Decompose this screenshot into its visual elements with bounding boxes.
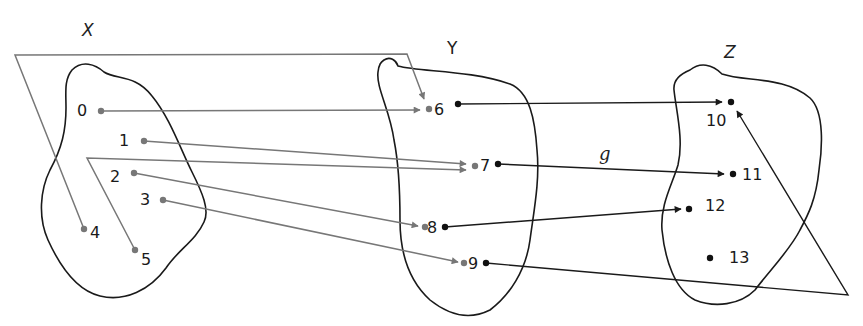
element-9-out-dot xyxy=(483,260,489,266)
set-x-elements: 0 1 2 3 4 5 xyxy=(77,101,166,269)
element-3: 3 xyxy=(140,190,166,209)
edge-g-8-to-12 xyxy=(445,209,681,227)
element-4-dot xyxy=(81,226,87,232)
element-11: 11 xyxy=(730,165,763,184)
element-11-dot xyxy=(730,171,736,177)
element-0-label: 0 xyxy=(77,101,87,120)
element-12-label: 12 xyxy=(705,196,725,215)
set-z-outline xyxy=(662,65,822,304)
element-8-out-dot xyxy=(442,224,448,230)
edge-f-2-to-8 xyxy=(134,173,418,226)
element-3-label: 3 xyxy=(140,190,150,209)
set-z-elements: 10 11 12 13 xyxy=(686,99,763,267)
element-2-label: 2 xyxy=(110,167,120,186)
set-y-outline xyxy=(378,58,538,315)
element-7-label: 7 xyxy=(480,156,490,175)
element-4-label: 4 xyxy=(90,223,100,242)
element-1-dot xyxy=(141,138,147,144)
element-9-label: 9 xyxy=(468,254,478,273)
element-1-label: 1 xyxy=(119,131,129,150)
edge-f-1-to-7 xyxy=(144,141,466,164)
element-5: 5 xyxy=(132,247,151,269)
element-9: 9 xyxy=(461,254,489,273)
element-10-label: 10 xyxy=(706,111,726,130)
element-8-label: 8 xyxy=(427,218,437,237)
element-8: 8 xyxy=(422,218,448,237)
element-4: 4 xyxy=(81,223,100,242)
element-7-in-dot xyxy=(472,163,478,169)
set-y-elements: 6 7 8 9 xyxy=(422,100,501,273)
element-1: 1 xyxy=(119,131,147,150)
function-g-edges: g xyxy=(445,102,848,295)
element-10-dot xyxy=(728,99,734,105)
edge-f-3-to-9 xyxy=(163,200,458,262)
edge-g-7-to-11 xyxy=(498,164,724,174)
element-6-label: 6 xyxy=(434,100,444,119)
element-0-dot xyxy=(98,108,104,114)
set-x-outline xyxy=(41,64,206,297)
edge-g-6-to-10 xyxy=(458,102,722,104)
element-2: 2 xyxy=(110,167,137,186)
edge-f-0-to-6 xyxy=(101,110,420,111)
element-7-out-dot xyxy=(495,161,501,167)
function-g-label: g xyxy=(599,143,611,164)
element-12: 12 xyxy=(686,196,726,215)
element-5-label: 5 xyxy=(141,250,151,269)
element-7: 7 xyxy=(472,156,501,175)
element-13-label: 13 xyxy=(729,248,749,267)
element-6-in-dot xyxy=(426,106,432,112)
set-y-label: Y xyxy=(446,38,458,58)
set-y: Y xyxy=(378,38,538,315)
element-11-label: 11 xyxy=(742,165,762,184)
set-z-label: Z xyxy=(723,42,736,62)
edge-g-9-to-10 xyxy=(486,111,848,295)
element-5-dot xyxy=(132,247,138,253)
element-6: 6 xyxy=(426,100,461,119)
set-x-label: X xyxy=(81,20,94,40)
element-3-dot xyxy=(160,197,166,203)
edge-f-4-to-6 xyxy=(15,54,424,229)
element-10: 10 xyxy=(706,99,734,130)
element-13: 13 xyxy=(707,248,750,267)
function-composition-diagram: X Y Z g 0 1 2 xyxy=(0,0,863,326)
element-9-in-dot xyxy=(461,260,467,266)
element-0: 0 xyxy=(77,101,104,120)
element-12-dot xyxy=(686,206,692,212)
element-13-dot xyxy=(707,255,713,261)
element-6-out-dot xyxy=(455,101,461,107)
element-2-dot xyxy=(131,170,137,176)
